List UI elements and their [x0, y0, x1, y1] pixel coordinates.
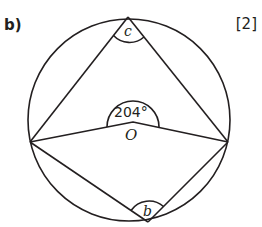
angle-label-204: 204°: [114, 104, 148, 120]
angle-label-c: c: [124, 23, 132, 39]
circle: [28, 19, 230, 221]
chord-left-to-bottom: [30, 142, 148, 222]
chord-bottom-to-right: [148, 142, 228, 222]
angle-label-b: b: [143, 203, 152, 219]
center-label-o: O: [125, 126, 137, 144]
circle-theorem-diagram: c 204° O b: [0, 0, 262, 227]
chord-top-to-right: [128, 17, 228, 142]
